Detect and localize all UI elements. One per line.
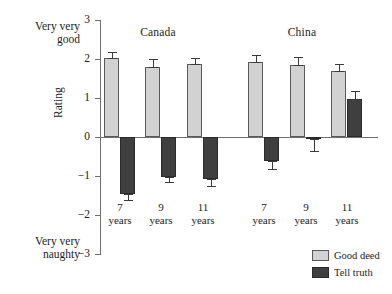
error-bar-cap bbox=[335, 71, 344, 72]
bar-good-deed bbox=[331, 71, 346, 137]
x-tick-label: 11years bbox=[321, 201, 373, 227]
error-bar-cap bbox=[124, 194, 133, 195]
error-bar-stem bbox=[153, 59, 154, 66]
error-bar-cap bbox=[351, 99, 360, 100]
error-bar-cap bbox=[268, 161, 277, 162]
error-bar-cap bbox=[165, 177, 174, 178]
legend-item[interactable]: Tell truth bbox=[312, 267, 380, 278]
bar-tell-truth bbox=[347, 99, 362, 137]
error-bar-cap bbox=[294, 57, 303, 58]
error-bar-cap bbox=[310, 151, 319, 152]
group-title-canada: Canada bbox=[118, 26, 198, 38]
y-tick-label: −1 bbox=[68, 170, 90, 181]
y-tick-label: −3 bbox=[68, 248, 90, 259]
bar-good-deed bbox=[145, 67, 160, 137]
bar-good-deed bbox=[104, 58, 119, 137]
error-bar-stem bbox=[256, 55, 257, 62]
error-bar-stem bbox=[314, 139, 315, 151]
y-axis-title-wrap: Rating bbox=[52, 118, 83, 130]
legend-swatch-icon bbox=[312, 267, 329, 278]
axis-top-anchor-line2: good bbox=[8, 33, 80, 46]
legend-label: Good deed bbox=[334, 250, 380, 261]
y-tick-label: 3 bbox=[68, 14, 90, 25]
error-bar-cap bbox=[252, 62, 261, 63]
y-tick-label: −2 bbox=[68, 209, 90, 220]
y-tick-label: 0 bbox=[68, 131, 90, 142]
y-tick-label: 2 bbox=[68, 53, 90, 64]
error-bar-cap bbox=[149, 67, 158, 68]
bar-tell-truth bbox=[120, 137, 135, 194]
error-bar-cap bbox=[165, 182, 174, 183]
error-bar-cap bbox=[207, 179, 216, 180]
error-bar-cap bbox=[149, 59, 158, 60]
error-bar-cap bbox=[268, 169, 277, 170]
x-tick-age: 11 bbox=[177, 201, 229, 214]
bar-tell-truth bbox=[161, 137, 176, 177]
x-tick-unit: years bbox=[321, 214, 373, 227]
error-bar-cap bbox=[108, 52, 117, 53]
bar-tell-truth bbox=[264, 137, 279, 161]
legend-item[interactable]: Good deed bbox=[312, 250, 380, 261]
error-bar-cap bbox=[310, 139, 319, 140]
error-bar-cap bbox=[191, 58, 200, 59]
bar-good-deed bbox=[187, 64, 202, 137]
bar-chart: Very very good Very very naughty Rating … bbox=[0, 0, 392, 294]
x-tick-unit: years bbox=[177, 214, 229, 227]
legend-swatch-icon bbox=[312, 250, 329, 261]
zero-baseline bbox=[100, 137, 378, 138]
bar-good-deed bbox=[248, 62, 263, 137]
error-bar-cap bbox=[252, 55, 261, 56]
error-bar-stem bbox=[339, 64, 340, 71]
error-bar-cap bbox=[294, 65, 303, 66]
error-bar-cap bbox=[108, 58, 117, 59]
group-title-china: China bbox=[262, 26, 342, 38]
axis-bottom-anchor-line1: Very very bbox=[8, 235, 80, 248]
bar-tell-truth bbox=[203, 137, 218, 179]
legend-label: Tell truth bbox=[334, 267, 373, 278]
y-tick-mark bbox=[95, 254, 100, 255]
y-tick-mark bbox=[95, 98, 100, 99]
error-bar-cap bbox=[191, 64, 200, 65]
error-bar-cap bbox=[351, 91, 360, 92]
error-bar-stem bbox=[355, 91, 356, 100]
error-bar-cap bbox=[335, 64, 344, 65]
error-bar-cap bbox=[207, 186, 216, 187]
y-tick-mark bbox=[95, 20, 100, 21]
y-tick-mark bbox=[95, 176, 100, 177]
bar-good-deed bbox=[290, 65, 305, 137]
y-tick-mark bbox=[95, 59, 100, 60]
error-bar-stem bbox=[298, 57, 299, 65]
x-tick-label: 11years bbox=[177, 201, 229, 227]
y-axis-title: Rating bbox=[52, 87, 64, 118]
y-tick-label: 1 bbox=[68, 92, 90, 103]
x-tick-age: 11 bbox=[321, 201, 373, 214]
legend: Good deedTell truth bbox=[312, 250, 380, 284]
error-bar-stem bbox=[272, 161, 273, 169]
